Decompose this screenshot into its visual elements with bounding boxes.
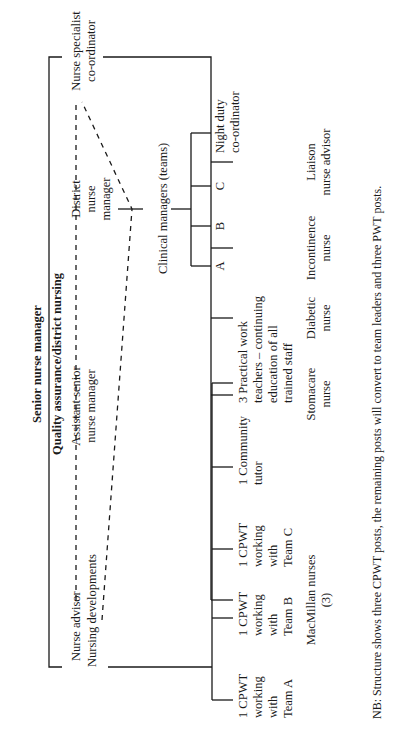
night-duty-coordinator: Night dutyco-ordinator (213, 91, 243, 153)
org-chart-diagram: Senior nurse manager Quality assurance/d… (0, 0, 394, 729)
incontinence-nurse: Incontinencenurse (304, 208, 334, 288)
specialist-connector (103, 57, 211, 600)
cpwt-team-a: 1 CPWTworkingwithTeam A (236, 674, 296, 718)
clinical-team-c: C (213, 179, 228, 193)
assistant-senior-nurse-manager: Assistant seniornurse manager (69, 351, 99, 461)
liaison-nurse-advisor: Liaisonnurse advisor (304, 122, 334, 202)
diabetic-nurse: Diabeticnurse (304, 288, 334, 348)
nursing-developments-label: Nursing developments (85, 554, 100, 667)
district-nurse-manager: Districtnursemanager (69, 169, 114, 229)
community-tutor: 1 Communitytutor (236, 416, 266, 485)
clinical-managers-label: Clinical managers (teams) (156, 143, 171, 274)
nurse-specialist-coordinator: Nurse specialistco-ordinator (69, 1, 99, 101)
page-title: Senior nurse manager (30, 264, 45, 464)
cpwt-team-b: 1 CPWTworkingwithTeam B (236, 592, 296, 636)
stomacare-nurse: Stomacarenurse (304, 359, 334, 429)
page-subtitle: Quality assurance/district nursing (50, 239, 65, 489)
nurse-advisor-label: Nurse advisor (69, 591, 84, 661)
footnote: NB: Structure shows three CPWT posts, th… (370, 186, 385, 719)
clinical-team-b: B (213, 219, 228, 233)
practical-work-teachers: 3 Practical workteachers – continuingedu… (236, 296, 296, 403)
cpwt-team-c: 1 CPWTworkingwithTeam C (236, 523, 296, 567)
macmillan-nurses: MacMillan nurses(3) (304, 550, 334, 650)
clinical-team-a: A (213, 259, 228, 273)
